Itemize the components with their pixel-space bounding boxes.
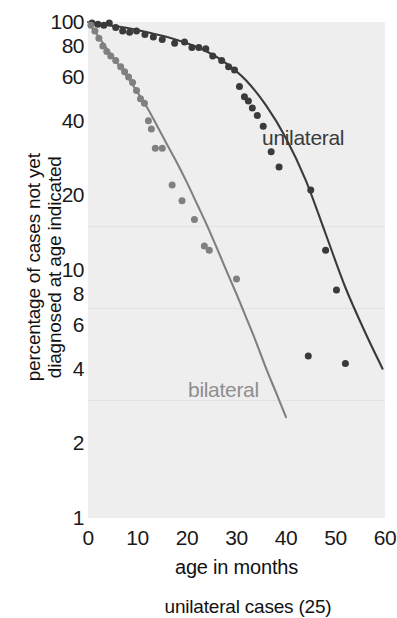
series-bilateral [87, 22, 286, 417]
data-point-bilateral [129, 79, 136, 86]
data-point-unilateral [276, 164, 283, 171]
x-axis-title: age in months [88, 556, 385, 579]
y-axis-title: percentage of cases not yetdiagnosed at … [23, 57, 66, 477]
series-unilateral [88, 20, 383, 369]
data-point-bilateral [95, 35, 102, 42]
data-point-unilateral [106, 20, 113, 27]
data-point-unilateral [254, 112, 261, 119]
data-point-bilateral [87, 22, 94, 29]
data-point-unilateral [218, 57, 225, 64]
y-tick-label: 1 [0, 507, 84, 528]
data-point-unilateral [231, 67, 238, 74]
data-point-unilateral [305, 353, 312, 360]
data-point-unilateral [342, 360, 349, 367]
data-point-bilateral [133, 87, 140, 94]
data-point-bilateral [148, 126, 155, 133]
data-point-unilateral [307, 187, 314, 194]
data-point-unilateral [249, 105, 256, 112]
data-point-unilateral [94, 21, 101, 28]
data-point-unilateral [119, 27, 126, 34]
data-point-bilateral [91, 27, 98, 34]
data-point-bilateral [179, 197, 186, 204]
data-point-unilateral [188, 44, 195, 51]
data-point-bilateral [152, 145, 159, 152]
data-point-unilateral [209, 52, 216, 59]
x-tick-label: 0 [82, 527, 93, 548]
data-point-unilateral [245, 98, 252, 105]
data-point-bilateral [191, 216, 198, 223]
data-point-unilateral [181, 39, 188, 46]
data-point-bilateral [159, 145, 166, 152]
series-label-unilateral: unilateral [262, 126, 344, 150]
series-label-bilateral: bilateral [188, 378, 259, 402]
data-point-unilateral [150, 34, 157, 41]
data-point-unilateral [333, 287, 340, 294]
data-point-bilateral [206, 247, 213, 254]
data-point-unilateral [195, 44, 202, 51]
fit-curve-bilateral [88, 22, 286, 417]
data-point-bilateral [145, 117, 152, 124]
data-point-bilateral [112, 57, 119, 64]
data-point-unilateral [225, 63, 232, 70]
data-point-unilateral [322, 247, 329, 254]
x-tick-label: 10 [126, 527, 148, 548]
x-tick-label: 60 [374, 527, 396, 548]
data-point-unilateral [202, 45, 209, 52]
data-point-unilateral [171, 40, 178, 47]
x-tick-label: 20 [176, 527, 198, 548]
data-point-bilateral [169, 182, 176, 189]
data-point-bilateral [233, 275, 240, 282]
y-tick-label: 80 [0, 35, 84, 56]
data-point-unilateral [126, 29, 133, 36]
data-point-bilateral [141, 100, 148, 107]
data-point-unilateral [159, 36, 166, 43]
data-point-unilateral [133, 27, 140, 34]
fit-curve-unilateral [88, 22, 383, 369]
data-point-unilateral [236, 83, 243, 90]
y-tick-label: 100 [0, 11, 84, 32]
figure-caption: unilateral cases (25) [88, 596, 397, 618]
data-point-unilateral [112, 24, 119, 31]
x-tick-label: 30 [225, 527, 247, 548]
x-tick-label: 40 [275, 527, 297, 548]
x-tick-label: 50 [324, 527, 346, 548]
data-point-unilateral [141, 31, 148, 38]
